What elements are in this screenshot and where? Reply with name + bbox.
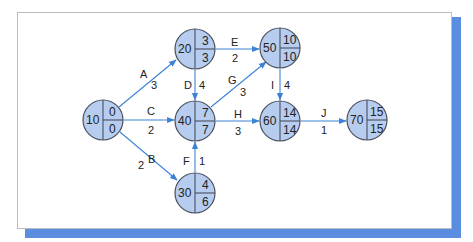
edge-A-activity: A bbox=[140, 68, 148, 80]
edge-G-duration: 3 bbox=[240, 86, 246, 98]
node-60: 60 14 14 bbox=[260, 101, 300, 141]
edge-D-activity: D bbox=[184, 79, 192, 91]
node-early-time: 10 bbox=[283, 33, 297, 47]
node-id: 60 bbox=[263, 114, 277, 128]
node-late-time: 7 bbox=[202, 123, 209, 137]
edge-G-activity: G bbox=[228, 74, 237, 86]
edge-I-activity: I bbox=[271, 79, 274, 91]
node-early-time: 4 bbox=[202, 178, 209, 192]
node-id: 30 bbox=[178, 186, 192, 200]
edge-A-duration: 3 bbox=[151, 79, 157, 91]
edge-F-duration: 1 bbox=[199, 155, 205, 167]
node-early-time: 7 bbox=[202, 106, 209, 120]
node-late-time: 3 bbox=[202, 51, 209, 65]
node-late-time: 14 bbox=[283, 123, 297, 137]
node-id: 70 bbox=[350, 113, 364, 127]
node-late-time: 10 bbox=[283, 50, 297, 64]
node-early-time: 14 bbox=[283, 106, 297, 120]
node-late-time: 15 bbox=[370, 122, 384, 136]
edge-F-activity: F bbox=[183, 155, 190, 167]
node-late-time: 6 bbox=[202, 195, 209, 209]
edge-E-activity: E bbox=[231, 36, 238, 48]
edge-C-activity: C bbox=[147, 105, 155, 117]
network-diagram: A 3 C 2 B 2 D 4 F 1 E 2 G 3 H 3 I 4 J 1 … bbox=[0, 0, 473, 242]
node-30: 30 4 6 bbox=[175, 173, 215, 213]
edge-G bbox=[211, 62, 266, 107]
edge-D-duration: 4 bbox=[199, 79, 205, 91]
node-50: 50 10 10 bbox=[260, 28, 300, 68]
node-early-time: 15 bbox=[370, 105, 384, 119]
node-20: 20 3 3 bbox=[175, 29, 215, 69]
edge-A bbox=[119, 60, 176, 107]
edge-E-duration: 2 bbox=[232, 52, 238, 64]
edge-B-duration: 2 bbox=[138, 159, 144, 171]
node-id: 50 bbox=[263, 41, 277, 55]
node-early-time: 0 bbox=[109, 105, 116, 119]
node-id: 20 bbox=[178, 42, 192, 56]
node-early-time: 3 bbox=[202, 34, 209, 48]
edge-H-activity: H bbox=[234, 108, 242, 120]
edge-B-activity: B bbox=[148, 153, 155, 165]
edge-C-duration: 2 bbox=[148, 124, 154, 136]
node-id: 40 bbox=[178, 114, 192, 128]
node-id: 10 bbox=[86, 113, 100, 127]
edge-H-duration: 3 bbox=[235, 125, 241, 137]
node-40: 40 7 7 bbox=[175, 101, 215, 141]
edge-J-activity: J bbox=[321, 107, 327, 119]
edge-I-duration: 4 bbox=[284, 79, 290, 91]
node-70: 70 15 15 bbox=[347, 100, 387, 140]
node-late-time: 0 bbox=[109, 122, 116, 136]
node-10: 10 0 0 bbox=[83, 100, 123, 140]
edge-J-duration: 1 bbox=[321, 124, 327, 136]
